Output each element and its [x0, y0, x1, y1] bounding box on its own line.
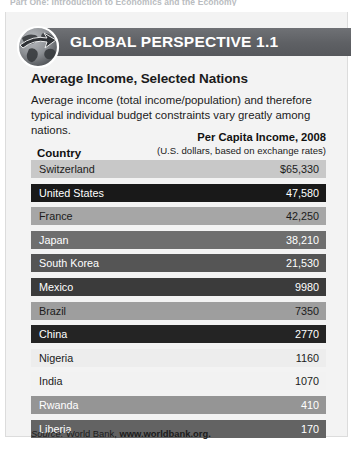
- table-body: Switzerland$65,330United States47,580Fra…: [31, 160, 326, 438]
- global-perspective-panel: GLOBAL PERSPECTIVE 1.1: [5, 12, 348, 437]
- row-country: Mexico: [39, 281, 73, 293]
- banner-bar: GLOBAL PERSPECTIVE 1.1: [44, 28, 351, 56]
- row-value: $65,330: [280, 163, 319, 175]
- table-row[interactable]: China2770: [31, 325, 326, 343]
- row-country: Brazil: [39, 305, 66, 317]
- row-value: 7350: [295, 305, 319, 317]
- table-row[interactable]: Japan38,210: [31, 231, 326, 249]
- row-country: Switzerland: [39, 163, 95, 175]
- row-country: Rwanda: [39, 399, 79, 411]
- row-value: 1070: [295, 375, 319, 387]
- table-row[interactable]: Nigeria1160: [31, 349, 326, 367]
- table-row[interactable]: Switzerland$65,330: [31, 160, 326, 178]
- row-country: United States: [39, 187, 104, 199]
- income-table: Country Per Capita Income, 2008 (U.S. do…: [31, 130, 326, 443]
- row-country: China: [39, 328, 67, 340]
- row-country: Nigeria: [39, 352, 73, 364]
- source-url[interactable]: www.worldbank.org.: [119, 428, 210, 439]
- column-header-income-title: Per Capita Income, 2008: [111, 130, 326, 144]
- row-value: 21,530: [286, 257, 319, 269]
- row-value: 2770: [295, 328, 319, 340]
- row-country: South Korea: [39, 257, 99, 269]
- row-country: France: [39, 210, 73, 222]
- column-header-income-units: (U.S. dollars, based on exchange rates): [111, 144, 326, 157]
- row-value: 38,210: [286, 234, 319, 246]
- source-name: World Bank,: [66, 428, 120, 439]
- table-row[interactable]: Rwanda410: [31, 396, 326, 414]
- running-head: Part One: Introduction to Economics and …: [10, 0, 290, 6]
- row-value: 170: [301, 423, 319, 435]
- table-row[interactable]: Mexico9980: [31, 278, 326, 296]
- column-header-country: Country: [37, 147, 81, 159]
- table-row[interactable]: France42,250: [31, 207, 326, 225]
- table-row[interactable]: India1070: [31, 372, 326, 390]
- column-header-income: Per Capita Income, 2008 (U.S. dollars, b…: [111, 130, 326, 157]
- row-value: 1160: [296, 352, 319, 364]
- globe-icon: [15, 24, 61, 70]
- row-value: 42,250: [286, 210, 319, 222]
- table-row[interactable]: Brazil7350: [31, 302, 326, 320]
- table-header: Country Per Capita Income, 2008 (U.S. do…: [31, 130, 326, 160]
- source-note: Source: World Bank, www.worldbank.org.: [31, 428, 211, 439]
- banner-title: GLOBAL PERSPECTIVE 1.1: [70, 33, 278, 51]
- row-value: 9980: [295, 281, 319, 293]
- source-label: Source:: [31, 428, 66, 439]
- intro-text-block: Average Income, Selected Nations Average…: [6, 62, 349, 139]
- table-row[interactable]: South Korea21,530: [31, 254, 326, 272]
- table-row[interactable]: United States47,580: [31, 184, 326, 202]
- row-value: 47,580: [286, 187, 319, 199]
- row-country: India: [39, 375, 62, 387]
- row-value: 410: [301, 399, 319, 411]
- page-title: Average Income, Selected Nations: [31, 71, 327, 86]
- row-country: Japan: [39, 234, 68, 246]
